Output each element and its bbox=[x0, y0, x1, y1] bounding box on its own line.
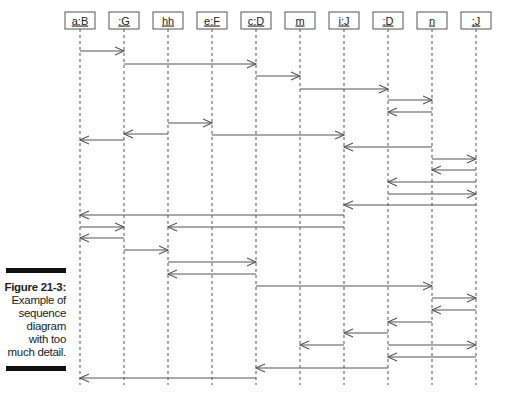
lifeline-J: ;J bbox=[461, 12, 491, 385]
object-label: :D bbox=[383, 15, 394, 27]
caption-line: with too bbox=[0, 333, 66, 346]
figure-number: Figure 21-3: bbox=[0, 281, 66, 294]
message-arrow bbox=[80, 47, 124, 55]
lifeline-n: n bbox=[417, 12, 447, 385]
message-arrow bbox=[432, 155, 476, 163]
message-arrow bbox=[212, 131, 344, 139]
object-label: e:F bbox=[204, 15, 220, 27]
sequence-diagram: a:B:Ghhe:Fc:Dmi:J:Dn;J bbox=[0, 0, 513, 401]
lifeline-G: :G bbox=[109, 12, 139, 385]
message-arrow bbox=[432, 166, 476, 174]
caption-line: Example of bbox=[0, 294, 66, 307]
lifeline-iJ: i:J bbox=[329, 12, 359, 385]
object-label: n bbox=[429, 15, 435, 27]
message-arrow bbox=[432, 294, 476, 302]
caption-line: diagram bbox=[0, 320, 66, 333]
message-arrow bbox=[388, 108, 432, 116]
message-arrow bbox=[80, 223, 124, 231]
messages bbox=[80, 47, 476, 382]
object-label: :G bbox=[118, 15, 130, 27]
message-arrow bbox=[80, 374, 256, 382]
object-label: a:B bbox=[72, 15, 89, 27]
figure-caption: Figure 21-3: Example of sequence diagram… bbox=[0, 268, 66, 371]
caption-top-bar bbox=[6, 268, 66, 273]
message-arrow bbox=[256, 72, 300, 80]
lifeline-eF: e:F bbox=[197, 12, 227, 385]
message-arrow bbox=[344, 201, 476, 209]
lifeline-cD: c:D bbox=[241, 12, 271, 385]
message-arrow bbox=[80, 136, 124, 144]
lifeline-D: :D bbox=[373, 12, 403, 385]
caption-bottom-bar bbox=[6, 366, 66, 371]
caption-line: much detail. bbox=[0, 346, 66, 359]
lifeline-aB: a:B bbox=[65, 12, 95, 385]
message-arrow bbox=[388, 318, 432, 326]
message-arrow bbox=[168, 119, 212, 127]
lifeline-hh: hh bbox=[153, 12, 183, 385]
message-arrow bbox=[300, 341, 344, 349]
message-arrow bbox=[124, 130, 168, 138]
object-label: c:D bbox=[248, 15, 265, 27]
object-label: hh bbox=[162, 15, 174, 27]
message-arrow bbox=[80, 234, 124, 242]
message-arrow bbox=[388, 96, 432, 104]
message-arrow bbox=[432, 306, 476, 314]
lifeline-m: m bbox=[285, 12, 315, 385]
object-label: i:J bbox=[339, 15, 350, 27]
caption-line: sequence bbox=[0, 307, 66, 320]
message-arrow bbox=[124, 60, 256, 68]
message-arrow bbox=[256, 364, 388, 372]
object-label: m bbox=[295, 15, 304, 27]
object-label: ;J bbox=[472, 15, 481, 27]
message-arrow bbox=[124, 246, 168, 254]
lifelines: a:B:Ghhe:Fc:Dmi:J:Dn;J bbox=[65, 12, 491, 385]
message-arrow bbox=[344, 329, 388, 337]
